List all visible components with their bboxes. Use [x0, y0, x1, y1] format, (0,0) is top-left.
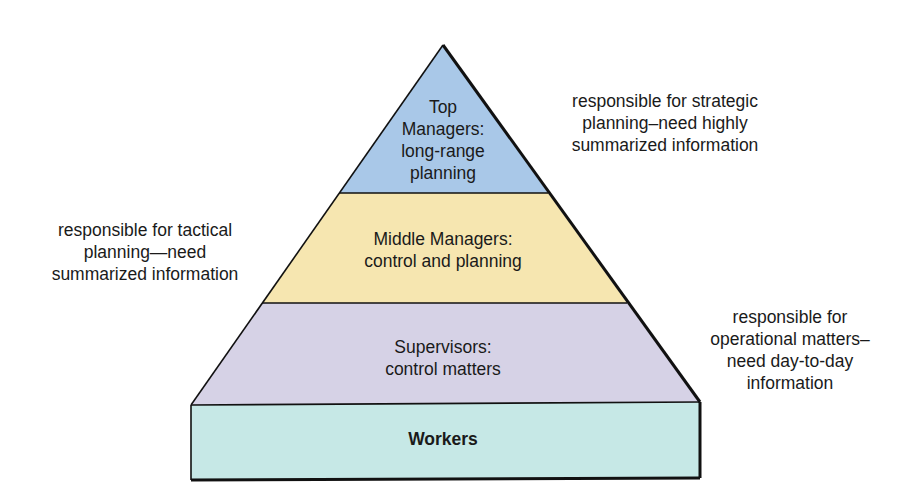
annotation-line: responsible for tactical: [20, 219, 270, 241]
tier-workers-label: Workers: [393, 428, 493, 450]
label-line: planning: [383, 162, 503, 184]
annotation-line: summarized information: [20, 263, 270, 285]
annotation-line: operational matters–: [690, 328, 890, 350]
label-line: Supervisors:: [373, 336, 513, 358]
label-line: Middle Managers:: [343, 228, 543, 250]
annotation-line: information: [690, 372, 890, 394]
annotation-line: planning—need: [20, 241, 270, 263]
annotation-line: summarized information: [540, 134, 790, 156]
label-line: Workers: [393, 428, 493, 450]
annotation-line: need day-to-day: [690, 350, 890, 372]
annotation-operational: responsible for operational matters– nee…: [690, 306, 890, 394]
annotation-line: planning–need highly: [540, 112, 790, 134]
annotation-tactical: responsible for tactical planning—need s…: [20, 219, 270, 285]
annotation-strategic: responsible for strategic planning–need …: [540, 90, 790, 156]
label-line: Top: [383, 96, 503, 118]
label-line: long-range: [383, 140, 503, 162]
tier-middle-managers-label: Middle Managers: control and planning: [343, 228, 543, 272]
tier-top-managers-label: Top Managers: long-range planning: [383, 96, 503, 184]
label-line: control matters: [373, 358, 513, 380]
label-line: Managers:: [383, 118, 503, 140]
annotation-line: responsible for: [690, 306, 890, 328]
tier-supervisors-label: Supervisors: control matters: [373, 336, 513, 380]
annotation-line: responsible for strategic: [540, 90, 790, 112]
label-line: control and planning: [343, 250, 543, 272]
